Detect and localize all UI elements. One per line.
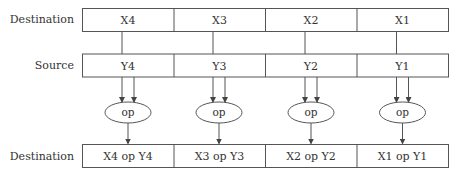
op-label: op <box>212 106 225 118</box>
dest-cell-x4: X4 <box>121 14 136 27</box>
src-cell-y2: Y2 <box>303 60 318 73</box>
row-label-destination-top: Destination <box>10 13 74 26</box>
op-label: op <box>121 106 134 118</box>
row-label-destination-bottom: Destination <box>10 150 74 163</box>
op-node-2: op <box>196 102 242 123</box>
result-cell-1: X1 op Y1 <box>378 150 428 163</box>
arrows-into-ops <box>122 77 409 102</box>
result-cell-3: X3 op Y3 <box>195 150 245 163</box>
op-node-3: op <box>288 102 334 123</box>
dest-cell-x2: X2 <box>304 14 319 27</box>
row-label-source: Source <box>35 59 74 72</box>
src-cell-y4: Y4 <box>120 60 135 73</box>
op-label: op <box>396 106 409 118</box>
op-label: op <box>304 106 317 118</box>
destination-register-top: X4 X3 X2 X1 <box>83 9 449 32</box>
op-node-4: op <box>380 102 426 123</box>
result-cell-2: X2 op Y2 <box>286 150 336 163</box>
destination-register-bottom: X4 op Y4 X3 op Y3 X2 op Y2 X1 op Y1 <box>83 145 449 168</box>
op-node-1: op <box>105 102 151 123</box>
dest-cell-x1: X1 <box>395 14 410 27</box>
simd-operation-diagram: Destination Source Destination X4 X3 X2 … <box>0 0 470 178</box>
connectors-top <box>122 32 397 55</box>
result-cell-4: X4 op Y4 <box>103 150 153 163</box>
dest-cell-x3: X3 <box>212 14 227 27</box>
src-cell-y3: Y3 <box>211 60 226 73</box>
src-cell-y1: Y1 <box>394 60 409 73</box>
arrows-out-of-ops <box>128 123 403 144</box>
source-register: Y4 Y3 Y2 Y1 <box>83 54 449 77</box>
